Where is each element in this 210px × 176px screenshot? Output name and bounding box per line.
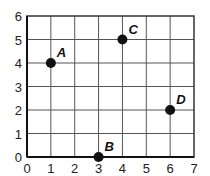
y-axis-ticks: 0123456 xyxy=(15,9,22,165)
point-label: C xyxy=(128,22,138,37)
x-tick-label: 6 xyxy=(167,161,174,176)
y-tick-label: 2 xyxy=(15,103,22,118)
grid-lines xyxy=(27,16,194,157)
point-marker-icon xyxy=(46,58,56,68)
y-tick-label: 0 xyxy=(15,150,22,165)
point-c: C xyxy=(117,22,138,45)
y-tick-label: 1 xyxy=(15,127,22,142)
data-points: ABCD xyxy=(46,22,186,163)
coordinate-grid-chart: 01234567 0123456 ABCD xyxy=(0,0,210,176)
point-label: D xyxy=(176,92,186,107)
y-tick-label: 5 xyxy=(15,33,22,48)
y-tick-label: 3 xyxy=(15,80,22,95)
point-d: D xyxy=(165,92,186,115)
y-tick-label: 6 xyxy=(15,9,22,24)
x-tick-label: 2 xyxy=(71,161,78,176)
x-tick-label: 7 xyxy=(190,161,197,176)
x-tick-label: 3 xyxy=(95,161,102,176)
point-marker-icon xyxy=(117,35,127,45)
point-a: A xyxy=(46,45,66,68)
x-tick-label: 5 xyxy=(143,161,150,176)
point-marker-icon xyxy=(94,152,104,162)
x-tick-label: 1 xyxy=(47,161,54,176)
point-label: B xyxy=(105,139,114,154)
x-axis-ticks: 01234567 xyxy=(23,161,197,176)
y-tick-label: 4 xyxy=(15,56,22,71)
x-tick-label: 0 xyxy=(23,161,30,176)
point-marker-icon xyxy=(165,105,175,115)
point-label: A xyxy=(56,45,66,60)
point-b: B xyxy=(94,139,114,162)
x-tick-label: 4 xyxy=(119,161,126,176)
